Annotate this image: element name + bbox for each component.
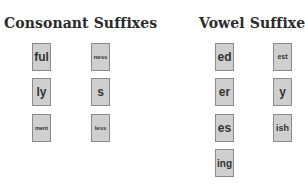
suffix-card-ly[interactable]: ly <box>32 78 51 106</box>
suffix-card-ing[interactable]: ing <box>215 149 234 177</box>
suffix-card-ment[interactable]: ment <box>32 114 51 142</box>
suffix-card-er[interactable]: er <box>215 78 234 106</box>
suffix-card-ness[interactable]: ness <box>91 43 110 71</box>
suffix-card-ish[interactable]: ish <box>273 114 292 142</box>
vowel-suffixes-heading: Vowel Suffixes <box>199 15 305 31</box>
suffix-card-est[interactable]: est <box>273 43 292 71</box>
consonant-suffixes-heading: Consonant Suffixes <box>4 15 157 31</box>
suffix-card-es[interactable]: es <box>215 114 234 142</box>
suffix-card-less[interactable]: less <box>91 114 110 142</box>
suffix-card-y[interactable]: y <box>273 78 292 106</box>
suffix-card-ful[interactable]: ful <box>32 43 51 71</box>
suffix-card-ed[interactable]: ed <box>215 43 234 71</box>
suffix-card-s[interactable]: s <box>91 78 110 106</box>
